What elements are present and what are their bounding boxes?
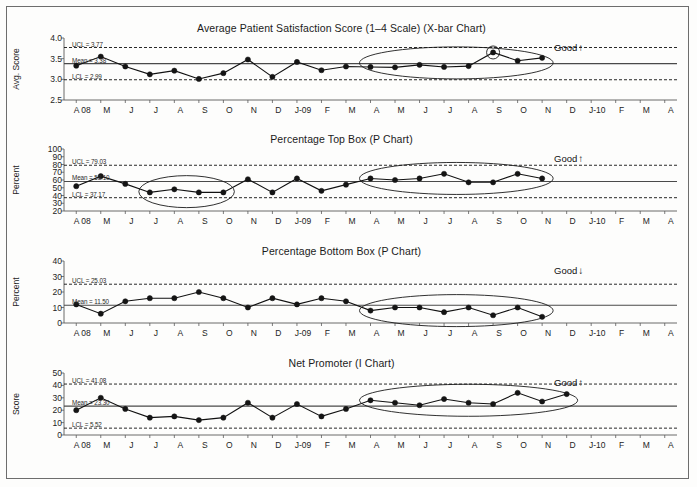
good-label-text: Good (554, 377, 577, 388)
ucl-label: UCL = 25.03 (72, 277, 106, 284)
lcl-label: LCL = 37.17 (72, 191, 105, 198)
mean-label: Mean = 58.10 (72, 174, 110, 181)
y-tick-label: 50 (24, 368, 62, 378)
y-tick-label: 0 (24, 430, 62, 440)
good-label-text: Good (554, 153, 577, 164)
y-tick-label: 10 (24, 303, 62, 313)
y-axis-label: Score (11, 393, 21, 415)
arrow-up-icon: ↑ (578, 42, 583, 53)
x-tick-label: A (657, 216, 685, 226)
arrow-down-icon: ↓ (578, 265, 583, 276)
good-label-text: Good (554, 42, 577, 53)
y-tick-label: 3.5 (24, 54, 62, 64)
y-tick-label: 3.0 (24, 74, 62, 84)
mean-label: Mean = 11.50 (72, 298, 109, 305)
good-direction-annotation: Good↑ (554, 377, 583, 388)
lcl-label: LCL = 2.99 (72, 73, 102, 80)
y-tick-label: 30 (24, 272, 62, 282)
y-axis-label: Percent (11, 277, 21, 306)
chart-plot (0, 133, 691, 243)
lcl-label: LCL = 5.52 (72, 421, 102, 428)
y-tick-label: 40 (24, 256, 62, 266)
y-tick-label: 4.0 (24, 33, 62, 43)
chart-plot (0, 357, 691, 467)
y-axis-label: Avg. Score (11, 48, 21, 89)
ucl-label: UCL = 3.77 (72, 41, 103, 48)
mean-label: Mean = 23.30 (72, 399, 110, 406)
good-direction-annotation: Good↑ (554, 153, 583, 164)
y-axis-label: Percent (11, 165, 21, 194)
ucl-label: UCL = 41.08 (72, 377, 106, 384)
mean-label: Mean = 3.38 (72, 57, 106, 64)
y-tick-label: 10 (24, 418, 62, 428)
x-tick-label: A (657, 440, 685, 450)
y-tick-label: 40 (24, 380, 62, 390)
good-direction-annotation: Good↑ (554, 42, 583, 53)
arrow-up-icon: ↑ (578, 377, 583, 388)
chart-plot (0, 22, 691, 132)
ucl-label: UCL = 79.03 (72, 158, 106, 165)
y-tick-label: 0 (24, 318, 62, 328)
good-label-text: Good (554, 265, 577, 276)
good-direction-annotation: Good↓ (554, 265, 583, 276)
arrow-up-icon: ↑ (578, 153, 583, 164)
y-tick-label: 20 (24, 287, 62, 297)
x-tick-label: A (657, 328, 685, 338)
x-tick-label: A (657, 105, 685, 115)
y-tick-label: 2.5 (24, 95, 62, 105)
control-chart-page: Average Patient Satisfaction Score (1–4 … (0, 0, 697, 487)
y-tick-label: 30 (24, 393, 62, 403)
y-tick-label: 20 (24, 405, 62, 415)
y-tick-label: 100 (24, 144, 62, 154)
